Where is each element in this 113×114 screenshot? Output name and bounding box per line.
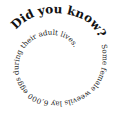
spiral-body: Some female weevils lay 6,000 eggs durin… (12, 28, 110, 109)
spiral-text-graphic: Did you know? Some female weevils lay 6,… (0, 0, 113, 114)
spiral-text: Did you know? Some female weevils lay 6,… (8, 2, 113, 109)
